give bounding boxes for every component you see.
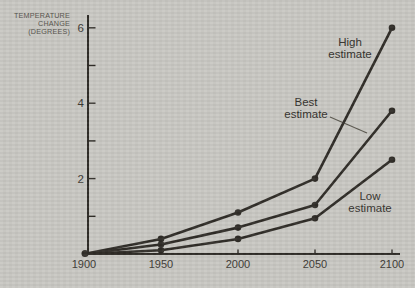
series-label-line: estimate — [341, 202, 399, 214]
data-point-high-estimate — [312, 175, 319, 182]
best-estimate-leader-line — [330, 117, 367, 133]
figure-canvas: TEMPERATURE CHANGE (DEGREES) 24619001950… — [0, 0, 415, 288]
data-point-best-estimate — [312, 202, 319, 209]
series-line-best-estimate — [84, 111, 392, 254]
series-label-high-estimate: High estimate — [324, 36, 376, 60]
series-label-low-estimate: Low estimate — [341, 190, 399, 214]
series-line-high-estimate — [84, 28, 392, 254]
y-tick-label: 2 — [78, 173, 84, 185]
data-point-best-estimate — [158, 241, 165, 248]
x-tick-label: 2100 — [380, 258, 404, 270]
data-point-low-estimate — [235, 236, 242, 243]
x-tick-label: 2050 — [303, 258, 327, 270]
y-tick-label: 4 — [78, 97, 85, 109]
data-point-best-estimate — [389, 107, 396, 114]
data-point-origin — [82, 250, 89, 257]
series-label-line: estimate — [281, 108, 331, 120]
series-label-line: Low — [341, 190, 399, 202]
data-point-best-estimate — [235, 224, 242, 231]
x-tick-label: 2000 — [226, 258, 250, 270]
data-point-low-estimate — [158, 247, 165, 254]
x-tick-label: 1900 — [72, 258, 96, 270]
data-point-low-estimate — [312, 215, 319, 222]
y-tick-label: 6 — [78, 22, 84, 34]
data-point-low-estimate — [389, 156, 396, 163]
x-tick-label: 1950 — [149, 258, 173, 270]
data-point-high-estimate — [235, 209, 242, 216]
data-point-high-estimate — [389, 25, 396, 32]
series-label-line: estimate — [324, 48, 376, 60]
series-label-line: Best — [281, 96, 331, 108]
series-label-line: High — [324, 36, 376, 48]
data-point-high-estimate — [158, 236, 165, 243]
series-label-best-estimate: Best estimate — [281, 96, 331, 120]
